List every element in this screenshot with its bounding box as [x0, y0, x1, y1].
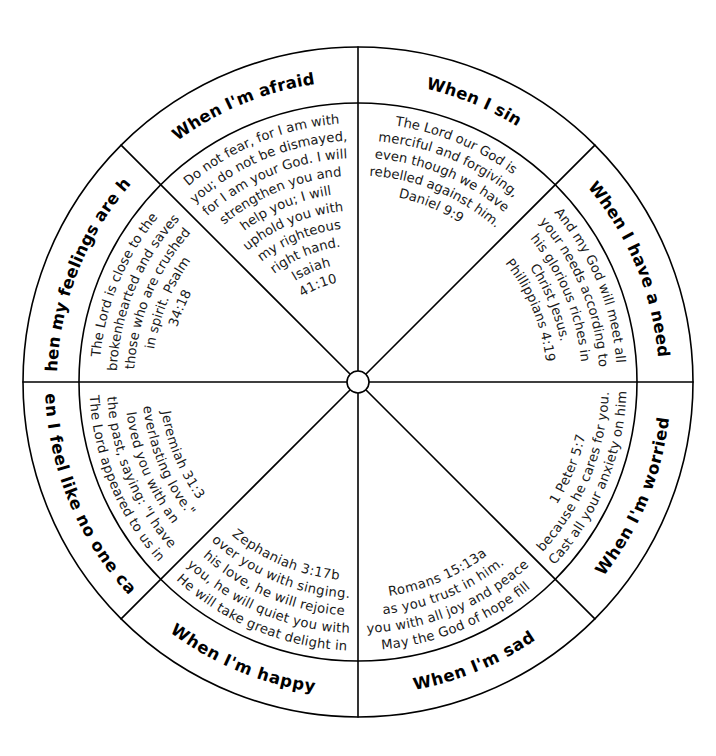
wheel-geometry — [23, 47, 693, 717]
promise-wheel-canvas: When I sinWhen I have a needWhen I'm wor… — [0, 0, 716, 756]
center-hub[interactable] — [347, 371, 369, 393]
segment-heading: When I sin — [425, 74, 526, 130]
promise-wheel-svg: When I sinWhen I have a needWhen I'm wor… — [0, 0, 716, 756]
segment-heading-label: When I sin — [425, 74, 526, 130]
